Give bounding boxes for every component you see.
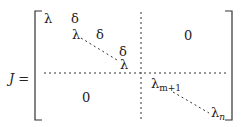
left-bracket [35, 11, 42, 120]
entry-lambda-2: λ [72, 28, 80, 41]
right-bracket [225, 11, 232, 120]
lhs-label: J = [9, 72, 29, 85]
entry-delta-1: δ [71, 12, 79, 25]
entry-lambda-m-plus-1: λm+1 [151, 77, 181, 93]
zero-lower-left: 0 [82, 91, 90, 104]
zero-upper-right: 0 [184, 29, 192, 42]
entry-lambda-1: λ [44, 12, 52, 25]
entry-lambda-n: λn [211, 106, 225, 122]
diagonal-dots-lower [173, 92, 209, 113]
entry-delta-2: δ [96, 28, 104, 41]
entry-lambda-3: λ [120, 58, 128, 71]
